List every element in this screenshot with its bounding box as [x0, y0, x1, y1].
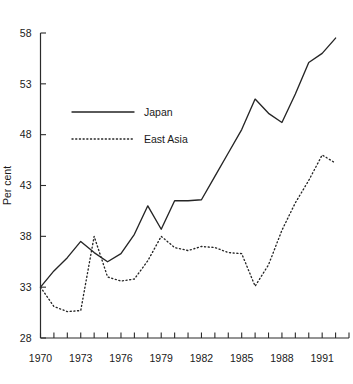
legend-label-east-asia: East Asia	[144, 133, 188, 145]
x-axis-tick-marks	[41, 333, 350, 339]
x-tick-label: 1982	[190, 352, 214, 364]
y-axis-tick-marks	[41, 33, 47, 338]
line-chart: 28333843485358 1970197319761979198219851…	[0, 0, 353, 384]
x-tick-label: 1970	[29, 352, 53, 364]
legend: Japan East Asia	[72, 106, 188, 145]
y-tick-label: 48	[20, 128, 32, 140]
series-line-east-asia	[41, 155, 336, 312]
x-tick-label: 1973	[69, 352, 93, 364]
x-tick-label: 1979	[150, 352, 174, 364]
chart-container: 28333843485358 1970197319761979198219851…	[0, 0, 353, 384]
y-tick-label: 43	[20, 179, 32, 191]
y-axis-title: Per cent	[1, 166, 13, 205]
x-tick-label: 1985	[230, 352, 254, 364]
y-tick-label: 58	[20, 27, 32, 39]
legend-label-japan: Japan	[144, 106, 173, 118]
y-tick-label: 53	[20, 78, 32, 90]
x-tick-label: 1988	[270, 352, 294, 364]
y-axis-tick-labels: 28333843485358	[20, 27, 32, 344]
y-tick-label: 33	[20, 281, 32, 293]
x-tick-label: 1991	[310, 352, 334, 364]
y-tick-label: 38	[20, 230, 32, 242]
y-tick-label: 28	[20, 332, 32, 344]
x-tick-label: 1976	[109, 352, 133, 364]
series-line-japan	[41, 38, 336, 287]
x-axis-tick-labels: 19701973197619791982198519881991	[29, 352, 334, 364]
